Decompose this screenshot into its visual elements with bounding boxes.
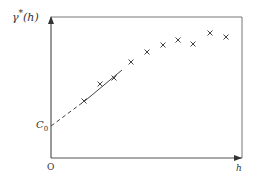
solid-fit-line [86, 70, 122, 100]
x-marker-icon [191, 42, 196, 47]
x-marker-icon [224, 35, 229, 40]
x-marker-icon [161, 43, 166, 48]
y-axis-label: γ*(h) [12, 9, 39, 23]
chart-canvas [0, 0, 255, 178]
intercept-label: C0 [36, 120, 48, 133]
x-marker-icon [145, 50, 150, 55]
x-axis-arrow-icon [234, 155, 242, 161]
dashed-extrapolation-line [51, 100, 86, 126]
x-marker-icon [129, 60, 134, 65]
data-points [82, 31, 229, 104]
origin-label: O [47, 163, 54, 172]
x-marker-icon [176, 38, 181, 43]
x-marker-icon [98, 82, 103, 87]
x-marker-icon [208, 31, 213, 36]
x-axis-label: h [236, 164, 242, 173]
x-marker-icon [82, 99, 87, 104]
